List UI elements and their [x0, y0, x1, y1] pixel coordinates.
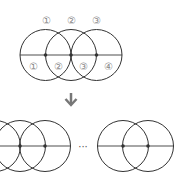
center-dot	[121, 144, 125, 148]
top-diagram: ① ② ③ ① ② ③ ④	[20, 15, 122, 81]
circle-diagram: ① ② ③ ① ② ③ ④ ···	[0, 0, 185, 176]
down-arrow-icon	[66, 93, 77, 105]
top-label: ③	[92, 15, 101, 26]
region-label: ①	[29, 61, 38, 72]
bottom-diagram: ···	[0, 121, 174, 172]
center-dot	[146, 144, 150, 148]
center-dot	[95, 53, 99, 57]
region-label: ④	[104, 61, 113, 72]
center-dot	[43, 144, 47, 148]
region-label: ②	[54, 61, 63, 72]
top-label: ②	[67, 15, 76, 26]
ellipsis: ···	[78, 141, 88, 152]
center-dot	[44, 53, 48, 57]
top-label: ①	[42, 15, 51, 26]
region-label: ③	[79, 61, 88, 72]
center-dot	[18, 144, 22, 148]
center-dot	[69, 53, 73, 57]
